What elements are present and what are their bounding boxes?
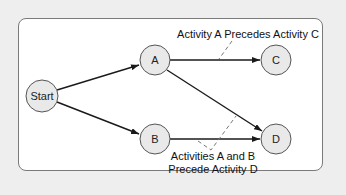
node-label: Start bbox=[30, 90, 53, 102]
node-a: A bbox=[140, 45, 170, 75]
edge-start-a bbox=[57, 65, 139, 90]
node-label: D bbox=[272, 133, 280, 145]
edge-start-b bbox=[57, 102, 139, 134]
annotation-ab-precede-d-line2: Precede Activity D bbox=[168, 163, 257, 175]
node-label: C bbox=[272, 54, 280, 66]
node-label: B bbox=[151, 133, 158, 145]
leader-a-precedes-c bbox=[219, 41, 232, 59]
leader-ab-precede-d bbox=[198, 116, 236, 150]
precedence-diagram: Start A B C D Activity A Precedes Activi… bbox=[0, 0, 346, 195]
annotation-a-precedes-c: Activity A Precedes Activity C bbox=[177, 28, 319, 40]
callout-leaders bbox=[198, 41, 236, 150]
node-b: B bbox=[140, 124, 170, 154]
annotation-ab-precede-d-line1: Activities A and B bbox=[171, 150, 255, 162]
edge-a-d bbox=[167, 70, 262, 131]
node-c: C bbox=[261, 45, 291, 75]
node-d: D bbox=[261, 124, 291, 154]
node-start: Start bbox=[26, 80, 58, 112]
node-label: A bbox=[151, 54, 159, 66]
